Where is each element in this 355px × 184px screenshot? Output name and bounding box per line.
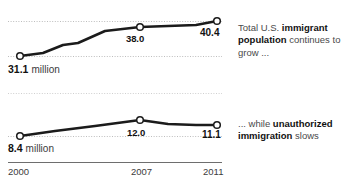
start-label-immigrant-population: 31.1million [8,63,60,75]
mid-label-unauthorized: 12.0 [127,127,145,138]
annotation-unauthorized-plain-2: slows [292,130,318,141]
chart-immigrant-population [8,18,222,60]
data-point-2011-immigrant[interactable] [214,18,221,25]
start-value-immigrant: 31.1 [8,63,28,75]
x-tick-2007: 2007 [131,166,152,177]
annotation-immigrant-population: Total U.S. immigrant population continue… [238,22,355,59]
series-line-immigrant-population [20,21,217,56]
end-label-unauthorized: 11.1 [202,129,221,140]
start-unit-immigrant: million [31,64,59,75]
annotation-immigrant-plain-1: Total U.S. [238,22,282,33]
x-tick-2000: 2000 [8,166,29,177]
start-value-unauthorized: 8.4 [8,142,23,154]
x-tick-2011: 2011 [203,166,223,177]
start-label-unauthorized: 8.4million [8,142,54,154]
data-point-2011-unauthorized[interactable] [214,122,221,129]
annotation-unauthorized-plain-1: ... while [238,118,273,129]
annotation-unauthorized-immigration: ... while unauthorized immigration slows [238,118,355,143]
data-point-2007-unauthorized[interactable] [137,117,144,124]
series-line-unauthorized-immigration [20,120,217,136]
end-label-immigrant-population: 40.4 [200,27,219,38]
chart-unauthorized-immigration [8,117,222,140]
infographic-root: 31.1million 38.0 40.4 8.4million 12.0 11… [0,0,355,184]
data-point-2007-immigrant[interactable] [137,24,144,31]
mid-label-immigrant-population: 38.0 [126,33,144,44]
data-point-2000-immigrant[interactable] [17,53,24,60]
data-point-2000-unauthorized[interactable] [17,133,24,140]
start-unit-unauthorized: million [26,143,54,154]
